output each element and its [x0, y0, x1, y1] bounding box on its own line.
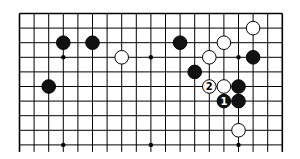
- go-board: 21: [0, 0, 300, 159]
- move-number: 1: [220, 96, 227, 107]
- white-stone: [217, 80, 231, 94]
- star-point: [61, 143, 65, 147]
- white-stone: [203, 51, 217, 65]
- star-point: [236, 55, 240, 59]
- white-stone: [115, 51, 129, 65]
- white-stone: 2: [203, 80, 217, 94]
- star-point: [149, 55, 153, 59]
- black-stone: [232, 94, 246, 108]
- white-stone: [246, 21, 260, 35]
- star-point: [61, 55, 65, 59]
- black-stone: [246, 51, 260, 65]
- star-point: [149, 143, 153, 147]
- white-stone: [217, 36, 231, 50]
- black-stone: [57, 36, 71, 50]
- black-stone: [42, 80, 56, 94]
- black-stone: [188, 65, 202, 79]
- star-point: [236, 143, 240, 147]
- black-stone: [86, 36, 100, 50]
- move-number: 2: [206, 81, 213, 92]
- black-stone: [232, 80, 246, 94]
- white-stone: [232, 124, 246, 138]
- black-stone: [173, 36, 187, 50]
- black-stone: 1: [217, 94, 231, 108]
